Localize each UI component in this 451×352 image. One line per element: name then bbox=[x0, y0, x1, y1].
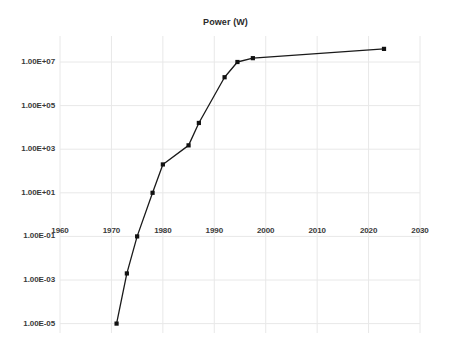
plot-area bbox=[0, 0, 451, 352]
x-tick-label: 2020 bbox=[349, 226, 389, 235]
data-point-marker bbox=[382, 47, 386, 51]
x-tick-label: 2010 bbox=[297, 226, 337, 235]
data-point-marker bbox=[125, 271, 129, 275]
y-tick-label: 1.00E-05 bbox=[23, 319, 55, 328]
y-tick-label: 1.00E+01 bbox=[21, 188, 55, 197]
vertical-gridlines bbox=[60, 36, 420, 333]
data-point-marker bbox=[150, 191, 154, 195]
data-point-marker bbox=[135, 234, 139, 238]
horizontal-gridlines bbox=[60, 62, 420, 324]
data-point-marker bbox=[222, 75, 226, 79]
data-point-marker bbox=[251, 56, 255, 60]
y-tick-label: 1.00E+05 bbox=[21, 101, 55, 110]
data-point-marker bbox=[161, 162, 165, 166]
chart-container: Power (W) 1.00E+071.00E+051.00E+031.00E+… bbox=[0, 0, 451, 352]
y-tick-label: 1.00E+03 bbox=[21, 144, 55, 153]
data-point-marker bbox=[197, 121, 201, 125]
y-tick-label: 1.00E-03 bbox=[23, 275, 55, 284]
y-tick-label: 1.00E+07 bbox=[21, 57, 55, 66]
data-point-marker bbox=[114, 322, 118, 326]
x-tick-label: 2030 bbox=[400, 226, 440, 235]
series-line-power bbox=[117, 49, 384, 324]
x-tick-label: 1970 bbox=[91, 226, 131, 235]
data-point-marker bbox=[235, 60, 239, 64]
data-line bbox=[117, 49, 384, 324]
data-point-marker bbox=[186, 143, 190, 147]
x-tick-label: 1960 bbox=[40, 226, 80, 235]
x-tick-label: 1980 bbox=[143, 226, 183, 235]
x-tick-label: 1990 bbox=[194, 226, 234, 235]
x-tick-label: 2000 bbox=[246, 226, 286, 235]
